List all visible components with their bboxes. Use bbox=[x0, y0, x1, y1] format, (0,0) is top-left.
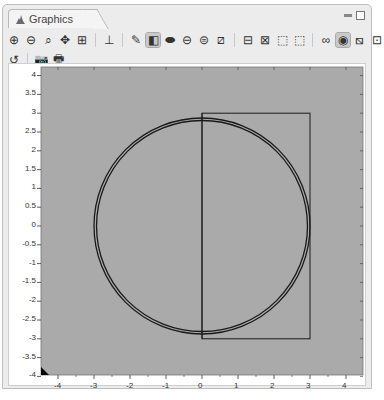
y-tick-label: -2.5 bbox=[22, 314, 36, 323]
y-tick-label: -2 bbox=[29, 295, 36, 304]
show-axis-icon[interactable]: ⧅ bbox=[353, 33, 367, 47]
y-tick-label: -3 bbox=[29, 333, 36, 342]
zoom-extents-icon[interactable]: ✥ bbox=[58, 33, 72, 47]
toolbar-separator bbox=[122, 33, 123, 47]
x-tick-label: 0 bbox=[198, 381, 202, 390]
x-tick-label: 1 bbox=[234, 381, 238, 390]
x-tick-label: 2 bbox=[270, 381, 274, 390]
toolbar-separator bbox=[312, 33, 313, 47]
graphics-icon bbox=[15, 14, 26, 25]
y-tick-label: 3 bbox=[32, 107, 36, 116]
minimize-icon[interactable] bbox=[344, 14, 352, 17]
wireframe-icon[interactable]: ⊖ bbox=[180, 33, 194, 47]
graphics-canvas[interactable] bbox=[9, 64, 365, 385]
zoom-selected-icon[interactable]: ⊞ bbox=[75, 33, 89, 47]
x-tick-label: -1 bbox=[162, 381, 169, 390]
x-tick-label: 4 bbox=[342, 381, 346, 390]
axis-orientation-icon[interactable]: ⊥ bbox=[102, 33, 116, 47]
select-boundary-icon[interactable]: ⊟ bbox=[241, 33, 255, 47]
link-icon[interactable]: ∞ bbox=[319, 33, 333, 47]
y-tick-label: -4 bbox=[29, 370, 36, 379]
show-grid-icon[interactable]: ◉ bbox=[336, 33, 350, 47]
y-tick-label: 1 bbox=[32, 182, 36, 191]
select-domain-icon[interactable]: ⊠ bbox=[258, 33, 272, 47]
y-tick-label: 4 bbox=[32, 70, 36, 79]
tab-graphics[interactable]: Graphics bbox=[8, 9, 96, 28]
y-tick-label: 1.5 bbox=[25, 164, 36, 173]
y-tick-label: 2.5 bbox=[25, 126, 36, 135]
tab-title: Graphics bbox=[29, 13, 73, 25]
y-tick-label: 2 bbox=[32, 145, 36, 154]
edit-render-icon[interactable]: ✎ bbox=[129, 33, 143, 47]
x-tick-label: -2 bbox=[126, 381, 133, 390]
y-tick-label: 0.5 bbox=[25, 201, 36, 210]
toolbar-separator bbox=[234, 33, 235, 47]
deselect-box-icon[interactable]: ⬚ bbox=[292, 33, 306, 47]
graphics-toolbar: ⊕⊖⌕✥⊞⊥✎◧⬬⊖⊜⧄⊟⊠⬚⬚∞◉⧅⊡ bbox=[7, 33, 384, 47]
y-tick-label: 0 bbox=[32, 220, 36, 229]
transparency-icon[interactable]: ◧ bbox=[146, 33, 160, 47]
x-tick-label: -3 bbox=[90, 381, 97, 390]
select-box-icon[interactable]: ⬚ bbox=[275, 33, 289, 47]
y-tick-label: -1.5 bbox=[22, 276, 36, 285]
y-tick-label: -3.5 bbox=[22, 352, 36, 361]
toolbar-separator bbox=[95, 33, 96, 47]
x-tick-label: 3 bbox=[306, 381, 310, 390]
y-tick-label: -0.5 bbox=[22, 239, 36, 248]
wireframe-alt-icon[interactable]: ⊜ bbox=[197, 33, 211, 47]
zoom-in-icon[interactable]: ⊕ bbox=[7, 33, 21, 47]
solid-render-icon[interactable]: ⬬ bbox=[163, 33, 177, 47]
y-tick-label: -1 bbox=[29, 258, 36, 267]
y-tick-label: 3.5 bbox=[25, 88, 36, 97]
x-tick-label: -4 bbox=[54, 381, 61, 390]
zoom-box-icon[interactable]: ⌕ bbox=[41, 33, 55, 47]
hide-icon[interactable]: ⧄ bbox=[214, 33, 228, 47]
plot-frame: -4-3-2-10123443.532.521.510.50-0.5-1-1.5… bbox=[8, 63, 366, 386]
zoom-out-icon[interactable]: ⊖ bbox=[24, 33, 38, 47]
maximize-icon[interactable] bbox=[356, 11, 365, 20]
show-labels-icon[interactable]: ⊡ bbox=[370, 33, 384, 47]
